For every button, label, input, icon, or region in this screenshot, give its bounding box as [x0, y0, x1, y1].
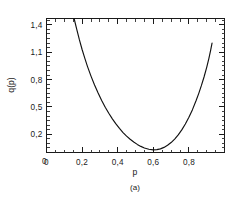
y-axis-ticklabels: 00,20,50,81,11,4 [31, 21, 48, 166]
figure-caption: (a) [130, 183, 140, 192]
data-curve [74, 19, 212, 150]
y-tick-label: 1,1 [31, 48, 43, 57]
chart-svg: 00,20,40,60,8 00,20,50,81,11,4 p q(p) (a… [0, 0, 244, 198]
plot-frame [47, 19, 225, 153]
y-axis-label: q(p) [6, 77, 16, 92]
y-tick-label: 0,5 [31, 103, 43, 112]
x-tick-label: 0,6 [147, 158, 159, 167]
y-tick-label: 0,8 [31, 76, 43, 85]
y-tick-label: 0 [42, 157, 47, 166]
x-axis-label: p [133, 167, 138, 177]
y-axis-ticks [47, 20, 225, 152]
x-tick-label: 0,4 [112, 158, 124, 167]
x-tick-label: 0,2 [76, 158, 88, 167]
y-tick-label: 0,2 [31, 130, 43, 139]
y-tick-label: 1,4 [31, 21, 43, 30]
x-axis-ticklabels: 00,20,40,60,8 [44, 158, 195, 167]
x-tick-label: 0,8 [183, 158, 195, 167]
figure-panel: 00,20,40,60,8 00,20,50,81,11,4 p q(p) (a… [0, 0, 244, 198]
x-axis-ticks [47, 19, 225, 153]
